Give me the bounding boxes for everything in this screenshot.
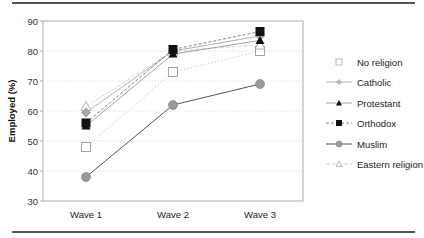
series-markers-muslim (82, 80, 265, 182)
y-tick-label: 80 (27, 46, 38, 57)
series-muslim (86, 84, 260, 177)
x-tick-label: Wave 1 (70, 209, 102, 220)
y-tick-label: 90 (27, 16, 38, 27)
legend: No religionCatholicProtestantOrthodoxMus… (326, 57, 423, 170)
legend-item: Muslim (326, 139, 387, 150)
y-tick-label: 40 (27, 166, 38, 177)
legend-item: Protestant (326, 98, 401, 109)
legend-item: Eastern religion (326, 159, 423, 170)
y-tick-label: 50 (27, 136, 38, 147)
legend-label: Protestant (357, 98, 401, 109)
series-no-religion (86, 51, 260, 147)
legend-item: Catholic (326, 77, 392, 88)
y-tick-label: 30 (27, 196, 38, 207)
x-tick-label: Wave 2 (157, 209, 189, 220)
legend-label: No religion (357, 57, 402, 68)
line-chart: 30405060708090Employed (%)Wave 1Wave 2Wa… (0, 0, 424, 238)
legend-label: Eastern religion (357, 159, 423, 170)
legend-label: Orthodox (357, 118, 396, 129)
series-markers-no-religion (82, 47, 265, 152)
y-axis-label: Employed (%) (6, 80, 17, 143)
y-tick-label: 70 (27, 76, 38, 87)
legend-item: No religion (336, 57, 402, 68)
legend-item: Orthodox (326, 118, 396, 129)
legend-label: Catholic (357, 77, 392, 88)
x-tick-label: Wave 3 (244, 209, 276, 220)
legend-label: Muslim (357, 139, 387, 150)
series-markers-orthodox (82, 27, 265, 128)
y-tick-label: 60 (27, 106, 38, 117)
